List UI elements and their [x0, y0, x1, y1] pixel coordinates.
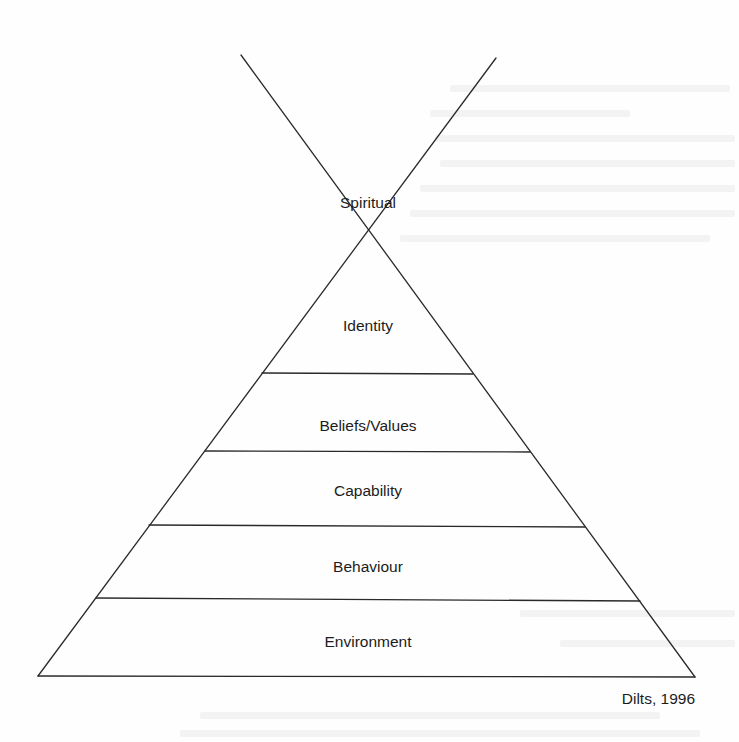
- pyramid-graphic: [0, 0, 739, 742]
- neurological-levels-diagram: Spiritual Identity Beliefs/Values Capabi…: [0, 0, 739, 742]
- level-label-environment: Environment: [324, 633, 411, 651]
- divider-capability-behaviour: [149, 525, 585, 527]
- level-label-behaviour: Behaviour: [333, 558, 403, 576]
- citation: Dilts, 1996: [622, 690, 695, 708]
- level-label-capability: Capability: [334, 482, 402, 500]
- level-label-identity: Identity: [343, 317, 393, 335]
- right-edge-line: [38, 58, 496, 676]
- divider-identity-beliefs: [262, 373, 473, 374]
- level-label-spiritual: Spiritual: [340, 194, 396, 212]
- divider-behaviour-environment: [96, 598, 640, 601]
- level-label-beliefs-values: Beliefs/Values: [319, 417, 416, 435]
- left-edge-line: [241, 55, 695, 677]
- divider-beliefs-capability: [205, 451, 530, 452]
- pyramid-base-line: [38, 676, 695, 677]
